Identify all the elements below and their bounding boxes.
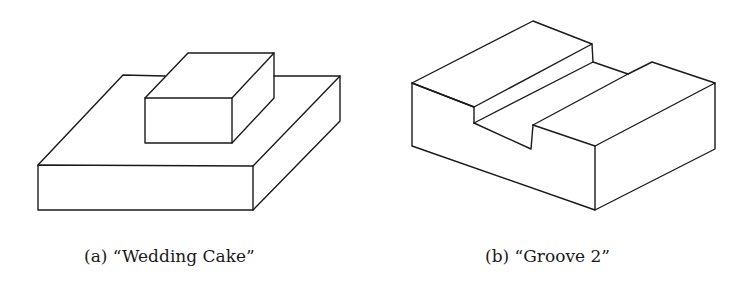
wedding-cake-drawing: [38, 53, 340, 210]
top-block: [145, 53, 274, 143]
groove-2-drawing: [412, 21, 715, 210]
figure-caption-groove-2: (b) “Groove 2”: [485, 246, 610, 266]
figure-caption-wedding-cake: (a) “Wedding Cake”: [84, 246, 255, 266]
